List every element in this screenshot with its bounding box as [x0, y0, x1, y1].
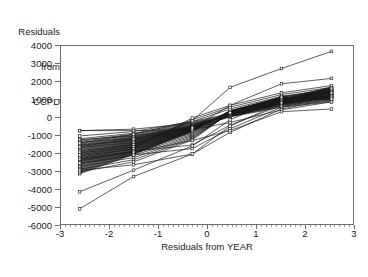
data-point-marker	[330, 77, 333, 80]
x-tick-label: 1	[241, 228, 271, 239]
figure-container: Residuals from CCPD -6000-5000-4000-3000…	[0, 0, 368, 277]
data-point-marker	[78, 135, 81, 138]
y-tick-label: 1000	[8, 94, 52, 105]
data-point-marker	[280, 92, 283, 95]
data-point-marker	[229, 104, 232, 107]
data-point-marker	[229, 119, 232, 122]
y-tick-label: -2000	[8, 148, 52, 159]
data-point-marker	[229, 129, 232, 132]
data-point-marker	[132, 147, 135, 150]
data-point-marker	[330, 50, 333, 53]
data-point-marker	[132, 175, 135, 178]
y-tick-label: 4000	[8, 40, 52, 51]
data-point-marker	[78, 169, 81, 172]
data-point-marker	[330, 92, 333, 95]
data-point-marker	[132, 133, 135, 136]
data-point-marker	[191, 139, 194, 142]
x-tick-label: -1	[143, 228, 173, 239]
y-tick-label: 2000	[8, 76, 52, 87]
data-point-marker	[78, 165, 81, 168]
data-point-marker	[132, 151, 135, 154]
data-point-marker	[191, 147, 194, 150]
x-tick-label: 3	[339, 228, 368, 239]
data-point-marker	[78, 162, 81, 165]
data-point-marker	[191, 119, 194, 122]
data-point-marker	[191, 117, 194, 120]
y-tick-label: -4000	[8, 184, 52, 195]
data-point-marker	[132, 169, 135, 172]
data-point-marker	[229, 125, 232, 128]
y-tick-label: 0	[8, 112, 52, 123]
y-tick-label: 3000	[8, 58, 52, 69]
y-tick-label: -1000	[8, 130, 52, 141]
data-point-marker	[132, 154, 135, 157]
y-axis-title-line-1: Residuals	[2, 26, 60, 38]
data-point-marker	[330, 108, 333, 111]
x-axis-title: Residuals from YEAR	[60, 241, 354, 252]
data-point-marker	[191, 127, 194, 130]
data-point-marker	[78, 151, 81, 154]
data-point-marker	[330, 84, 333, 87]
data-point-marker	[330, 98, 333, 101]
data-point-marker	[78, 191, 81, 194]
y-tick-label: -3000	[8, 166, 52, 177]
figure-caption	[6, 268, 362, 277]
x-tick-label: -2	[94, 228, 124, 239]
data-point-marker	[132, 161, 135, 164]
data-point-marker	[132, 164, 135, 167]
data-point-marker	[229, 111, 232, 114]
data-point-marker	[78, 158, 81, 161]
data-point-marker	[330, 87, 333, 90]
data-point-marker	[78, 129, 81, 132]
data-point-marker	[191, 145, 194, 148]
series-lines	[61, 46, 355, 226]
data-point-marker	[280, 101, 283, 104]
data-point-marker	[78, 208, 81, 211]
x-tick-label: 2	[290, 228, 320, 239]
plot-area	[60, 45, 354, 225]
data-point-marker	[280, 110, 283, 113]
data-point-marker	[229, 86, 232, 89]
data-point-marker	[280, 96, 283, 99]
data-point-marker	[78, 146, 81, 149]
data-point-marker	[78, 138, 81, 141]
data-point-marker	[280, 67, 283, 70]
y-tick-label: -5000	[8, 202, 52, 213]
data-point-marker	[78, 154, 81, 157]
data-point-marker	[191, 153, 194, 156]
data-point-marker	[229, 121, 232, 124]
data-point-marker	[132, 137, 135, 140]
data-point-marker	[280, 83, 283, 86]
x-tick-label: 0	[192, 228, 222, 239]
data-point-marker	[132, 129, 135, 132]
data-point-marker	[78, 142, 81, 145]
data-point-marker	[330, 101, 333, 104]
x-tick-label: -3	[45, 228, 75, 239]
